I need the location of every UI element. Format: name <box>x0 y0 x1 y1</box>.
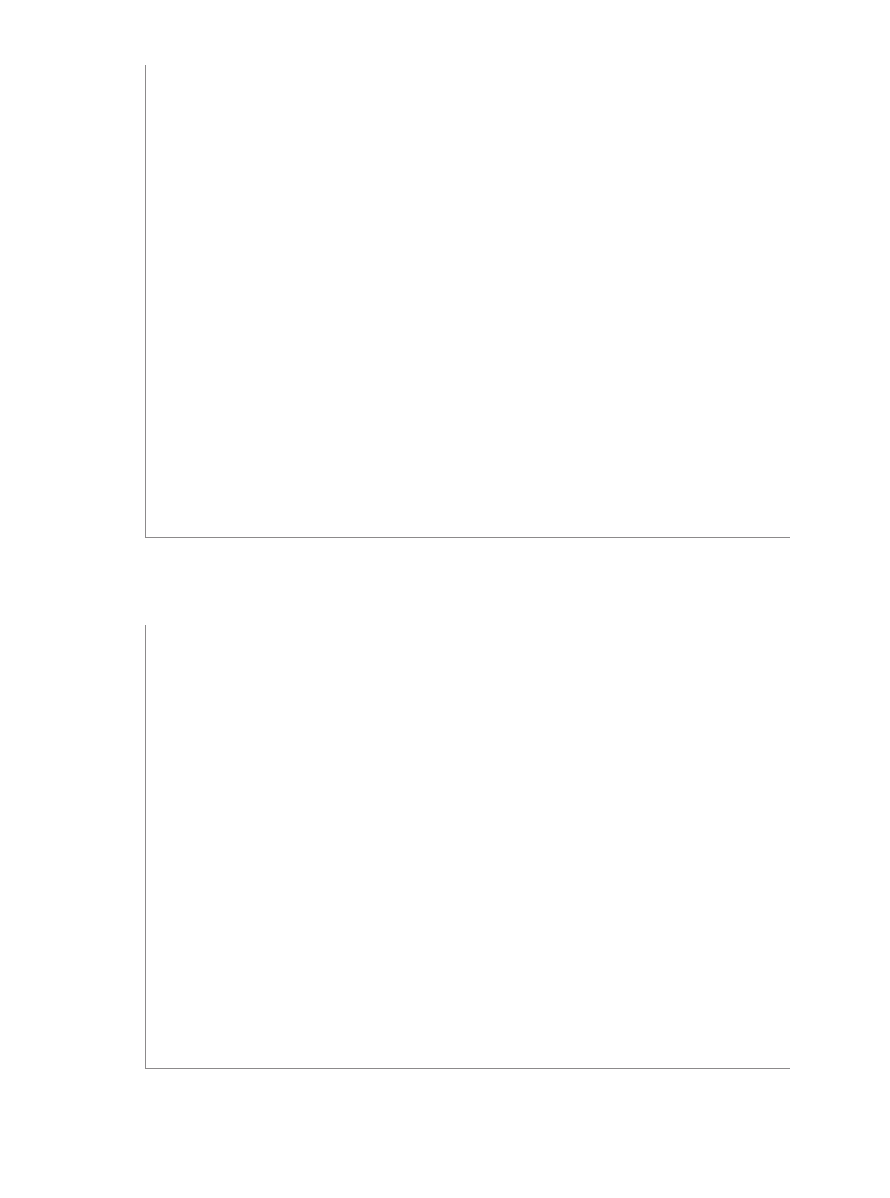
plot-background <box>145 625 790 1069</box>
histogram-figure <box>0 0 890 600</box>
y-axis-line <box>145 625 146 1069</box>
x-axis-line <box>145 537 790 538</box>
plot-background <box>145 65 790 538</box>
x-axis-line <box>145 1068 790 1069</box>
histogram-plot-area <box>145 65 790 538</box>
y-axis-line <box>145 65 146 538</box>
figure-page <box>0 0 890 1198</box>
relative-frequency-figure <box>0 592 890 1198</box>
relative-frequency-plot-area <box>145 625 790 1069</box>
